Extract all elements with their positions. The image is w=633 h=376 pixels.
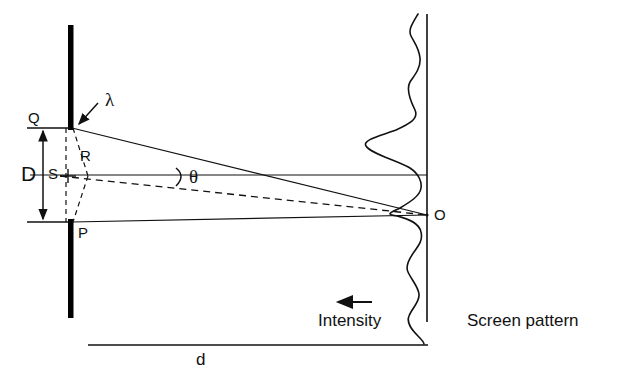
barrier-group bbox=[68, 25, 74, 318]
label-intensity: Intensity bbox=[318, 312, 381, 329]
label-Q: Q bbox=[28, 110, 40, 125]
label-d: d bbox=[196, 351, 205, 368]
angle-theta-arc bbox=[176, 168, 181, 186]
ray-P-to-O bbox=[72, 215, 427, 222]
label-D: D bbox=[21, 163, 36, 184]
diffraction-figure: Q D S R P λ θ O d Intensity Screen patte… bbox=[0, 0, 633, 376]
label-S: S bbox=[48, 166, 58, 181]
label-lambda: λ bbox=[105, 90, 114, 109]
ray-Q-to-O bbox=[72, 128, 427, 215]
label-theta: θ bbox=[189, 167, 198, 186]
point-O-marker bbox=[425, 213, 428, 216]
barrier-lower-segment bbox=[68, 219, 74, 318]
label-screen-pattern: Screen pattern bbox=[467, 312, 579, 329]
label-R: R bbox=[80, 148, 91, 163]
barrier-upper-segment bbox=[68, 25, 74, 130]
label-O: O bbox=[434, 207, 446, 222]
ray-S-to-O-dashed bbox=[60, 176, 427, 215]
intensity-profile-curve bbox=[365, 14, 424, 344]
label-P: P bbox=[78, 225, 88, 240]
dashed-wavefront-RP bbox=[73, 176, 88, 222]
wavelength-arrow bbox=[79, 103, 98, 124]
